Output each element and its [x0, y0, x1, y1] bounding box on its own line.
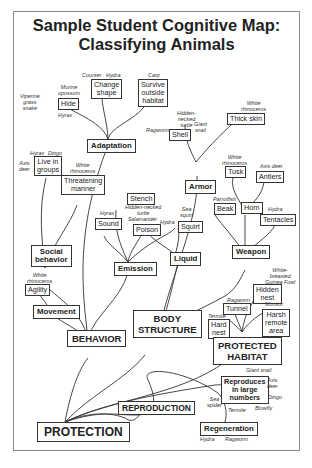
node-harsh-remote-area: Harshremotearea	[262, 309, 290, 337]
example-termite-repro: Termite	[228, 407, 246, 413]
example-giant-snail-shell: Giantsnail	[194, 121, 207, 133]
example-axis-deer-groups: Axisdeer	[19, 160, 30, 172]
example-axis-deer-antlers: Axis deer	[260, 163, 282, 169]
node-body-structure: BODYSTRUCTURE	[133, 310, 202, 338]
node-tentacles: Tentacles	[260, 214, 296, 226]
node-stench: Stench	[127, 193, 155, 205]
node-hard-nest: Hardnest	[208, 319, 230, 339]
node-emission: Emission	[114, 262, 157, 276]
example-giant-snail-repro: Giant snail	[246, 367, 271, 373]
node-horn: Horn	[241, 202, 263, 214]
node-regeneration: Regeneration	[200, 422, 258, 436]
node-shell: Shell	[169, 129, 191, 141]
example-monitor: Monitor	[265, 301, 283, 307]
node-adaptation: Adaptation	[87, 139, 136, 153]
example-hydra-poison: Hydra	[160, 219, 174, 225]
example-blowfly: Blowfly	[255, 405, 272, 411]
example-viperine-grass-snake: Viperinegrasssnake	[20, 93, 40, 112]
node-poison: Poison	[133, 224, 161, 236]
node-hide: Hide	[58, 98, 79, 110]
node-threatening-manner: Threateningmanner	[61, 175, 105, 195]
node-tunnel: Tunnel	[223, 303, 251, 315]
example-axis-deer-repro: Axisdeer	[267, 377, 278, 389]
node-tusk: Tusk	[225, 166, 246, 178]
node-reproduces-large-numbers: Reproducesin largenumbers	[221, 376, 269, 404]
example-hyrax-sound: Hyrax	[100, 210, 114, 216]
example-guinea-fowl: White-breastedGuinea Fowl	[265, 267, 295, 286]
example-hydra-shape: Hydra	[106, 72, 120, 78]
node-protection: PROTECTION	[37, 422, 130, 442]
node-change-shape: Changeshape	[91, 79, 122, 99]
example-hyrax-hide: Hyrax	[58, 112, 72, 118]
example-murine-opossum: Murineopossum	[58, 84, 80, 96]
node-live-in-groups: Live ingroups	[34, 156, 62, 176]
example-white-rhino-threat: Whiterhinoceros	[70, 162, 95, 174]
example-ragworm-regen: Ragworm	[225, 436, 248, 442]
example-dingo-repro: Dingo	[268, 394, 282, 400]
node-movement: Movement	[33, 305, 80, 319]
node-behavior: BEHAVIOR	[67, 330, 126, 347]
example-white-rhino-tusk: Whiterhinoceros	[222, 154, 247, 166]
node-liquid: Liquid	[170, 252, 201, 266]
node-agility: Agility	[25, 284, 50, 296]
example-hydra-regen: Hydra	[200, 436, 214, 442]
node-sound: Sound	[95, 218, 122, 230]
node-thick-skin: Thick skin	[227, 113, 265, 125]
node-weapon: Weapon	[232, 245, 270, 259]
node-armor: Armor	[185, 180, 216, 194]
node-beak: Beak	[214, 203, 236, 215]
example-courser: Courser	[82, 72, 101, 78]
example-white-rhino-skin: Whiterhinoceros	[241, 100, 266, 112]
node-protected-habitat: PROTECTEDHABITAT	[213, 337, 282, 365]
node-squirt: Squirt	[178, 221, 203, 233]
example-sea-spider: Seaspider	[207, 396, 222, 408]
node-survive-outside-habitat: Surviveoutsidehabitat	[138, 79, 168, 107]
example-ragworm-shell: Ragworm	[146, 127, 169, 133]
node-social-behavior: Socialbehavior	[31, 245, 72, 267]
example-parrotfish: Parrotfish	[213, 196, 236, 202]
node-reproduction: REPRODUCTION	[118, 401, 195, 415]
example-hydra-tentacles: Hydra	[268, 206, 282, 212]
example-carp: Carp	[148, 72, 160, 78]
example-white-rhino-agility: Whiterhinoceros	[27, 272, 52, 284]
example-hidden-turtle-stench: Hidden-neckedturtle	[125, 204, 161, 216]
example-salamander: Salamander	[128, 216, 157, 222]
example-sea-squirt: Seasquirt	[180, 206, 193, 218]
node-antlers: Antlers	[256, 171, 284, 183]
